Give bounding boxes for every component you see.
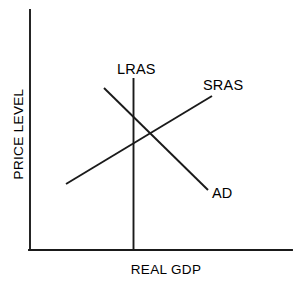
ad-label: AD xyxy=(212,185,233,201)
sras-label: SRAS xyxy=(203,77,243,93)
x-axis-label: REAL GDP xyxy=(131,262,202,277)
lras-label: LRAS xyxy=(117,61,156,77)
chart-background xyxy=(0,0,303,283)
diagram-canvas: LRAS SRAS AD REAL GDP PRICE LEVEL xyxy=(0,0,303,283)
ad-as-diagram: LRAS SRAS AD REAL GDP PRICE LEVEL xyxy=(0,0,303,283)
y-axis-label: PRICE LEVEL xyxy=(11,88,26,179)
